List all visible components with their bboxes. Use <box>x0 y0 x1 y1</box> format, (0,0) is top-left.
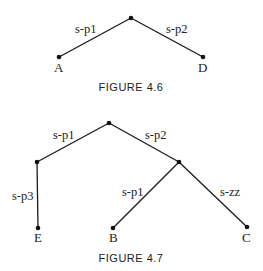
figure-4-6: s-p1 s-p2 A D FIGURE 4.6 <box>54 16 207 93</box>
figure-4-7: s-p1 s-p2 s-p3 s-p1 s-zz E B C FIGURE 4.… <box>12 121 251 264</box>
edge-n1-e <box>37 162 38 228</box>
edge-label: s-p1 <box>53 128 75 142</box>
node-label: D <box>198 60 207 75</box>
figure-caption: FIGURE 4.7 <box>99 252 164 264</box>
edge-label: s-p1 <box>75 22 97 36</box>
node-c <box>245 225 250 230</box>
edge-label: s-p3 <box>12 189 34 203</box>
edge-label: s-p2 <box>166 22 188 36</box>
node-internal <box>177 160 182 165</box>
edge-label: s-zz <box>220 185 241 199</box>
node-label: E <box>34 230 42 245</box>
edge-label: s-p2 <box>145 128 167 142</box>
node-label: A <box>54 60 64 75</box>
node-label: C <box>242 230 251 245</box>
figure-caption: FIGURE 4.6 <box>99 81 164 93</box>
node-label: B <box>109 230 118 245</box>
node-root <box>107 121 112 126</box>
diagram-canvas: s-p1 s-p2 A D FIGURE 4.6 s-p1 s-p2 s-p3 … <box>0 0 263 271</box>
edge-root-n2 <box>109 123 179 162</box>
node-a <box>57 55 62 60</box>
node-root <box>129 16 134 21</box>
node-internal <box>35 160 40 165</box>
edge-label: s-p1 <box>122 185 144 199</box>
node-d <box>201 55 206 60</box>
